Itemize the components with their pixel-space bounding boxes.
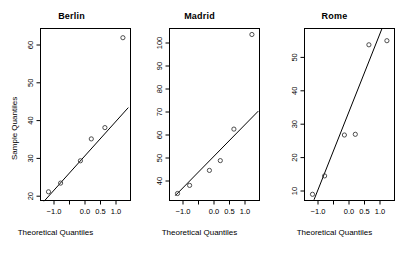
svg-text:10: 10 xyxy=(290,187,299,195)
svg-text:100: 100 xyxy=(155,37,164,50)
svg-text:40: 40 xyxy=(26,116,35,124)
x-ticklabels-madrid: −1.0 0.0 0.5 1.0 xyxy=(176,207,251,216)
svg-text:0.5: 0.5 xyxy=(224,207,234,216)
qq-line-berlin xyxy=(44,108,128,202)
x-axis-label-madrid: Theoretical Quantiles xyxy=(131,228,268,237)
data-point xyxy=(385,39,389,43)
svg-text:1.0: 1.0 xyxy=(111,207,121,216)
x-ticklabels-rome: −1.0 0.0 0.5 1.0 xyxy=(311,207,386,216)
plot-area-berlin: 20 30 40 50 60 −1.0 0.0 0.5 1.0 xyxy=(0,0,143,257)
data-point xyxy=(121,36,125,40)
x-ticks-madrid xyxy=(183,201,245,205)
svg-text:20: 20 xyxy=(26,192,35,200)
data-points-berlin xyxy=(46,36,125,194)
y-ticklabels-rome: 10 20 30 40 50 xyxy=(290,53,299,195)
data-point xyxy=(353,132,357,136)
data-point xyxy=(46,190,50,194)
y-ticks-madrid xyxy=(166,43,170,181)
x-axis-label-berlin: Theoretical Quantiles xyxy=(0,228,127,237)
x-ticks-rome xyxy=(318,201,380,205)
plot-area-madrid: 40 50 60 70 80 90 100 −1.0 0.0 0.5 1.0 xyxy=(139,0,276,257)
data-point xyxy=(188,183,192,187)
svg-text:50: 50 xyxy=(26,79,35,87)
data-point xyxy=(310,192,314,196)
data-point xyxy=(103,126,107,130)
panel-madrid: Madrid 40 50 60 70 80 90 100 xyxy=(139,0,276,257)
data-point xyxy=(342,133,346,137)
y-ticks-rome xyxy=(301,57,305,191)
svg-text:50: 50 xyxy=(155,154,164,162)
x-axis-label-rome: Theoretical Quantiles xyxy=(264,228,405,237)
data-points-rome xyxy=(310,39,389,197)
y-ticklabels-madrid: 40 50 60 70 80 90 100 xyxy=(155,37,164,185)
svg-text:50: 50 xyxy=(290,53,299,61)
data-point xyxy=(89,137,93,141)
svg-text:0.0: 0.0 xyxy=(344,207,354,216)
panel-rome: Rome 10 20 30 40 50 xyxy=(274,0,415,257)
svg-text:−1.0: −1.0 xyxy=(176,207,191,216)
svg-text:40: 40 xyxy=(155,177,164,185)
data-point xyxy=(367,43,371,47)
y-ticklabels-berlin: 20 30 40 50 60 xyxy=(26,41,35,201)
svg-text:0.5: 0.5 xyxy=(359,207,369,216)
data-point xyxy=(218,159,222,163)
plot-box-madrid xyxy=(170,29,260,201)
plot-box-berlin xyxy=(41,29,131,201)
svg-text:60: 60 xyxy=(26,41,35,49)
svg-text:20: 20 xyxy=(290,153,299,161)
qq-plot-figure: Berlin Sample Quantiles 20 30 40 50 60 xyxy=(0,0,415,257)
plot-box-rome xyxy=(305,29,395,201)
svg-text:−1.0: −1.0 xyxy=(47,207,62,216)
qq-line-madrid xyxy=(175,111,258,196)
svg-text:80: 80 xyxy=(155,85,164,93)
y-ticks-berlin xyxy=(37,45,41,196)
data-point xyxy=(207,168,211,172)
svg-text:60: 60 xyxy=(155,131,164,139)
plot-area-rome: 10 20 30 40 50 −1.0 0.0 0.5 1.0 xyxy=(274,0,415,257)
data-point xyxy=(232,127,236,131)
svg-text:0.0: 0.0 xyxy=(209,207,219,216)
svg-text:1.0: 1.0 xyxy=(240,207,250,216)
svg-text:40: 40 xyxy=(290,87,299,95)
data-points-madrid xyxy=(175,32,254,195)
svg-text:0.5: 0.5 xyxy=(95,207,105,216)
svg-text:30: 30 xyxy=(26,154,35,162)
svg-text:70: 70 xyxy=(155,108,164,116)
data-point xyxy=(250,32,254,36)
x-ticks-berlin xyxy=(54,201,116,205)
x-ticklabels-berlin: −1.0 0.0 0.5 1.0 xyxy=(47,207,122,216)
svg-text:30: 30 xyxy=(290,120,299,128)
svg-text:−1.0: −1.0 xyxy=(311,207,326,216)
svg-text:0.0: 0.0 xyxy=(80,207,90,216)
panel-berlin: Berlin Sample Quantiles 20 30 40 50 60 xyxy=(0,0,143,257)
svg-text:1.0: 1.0 xyxy=(375,207,385,216)
svg-text:90: 90 xyxy=(155,62,164,70)
